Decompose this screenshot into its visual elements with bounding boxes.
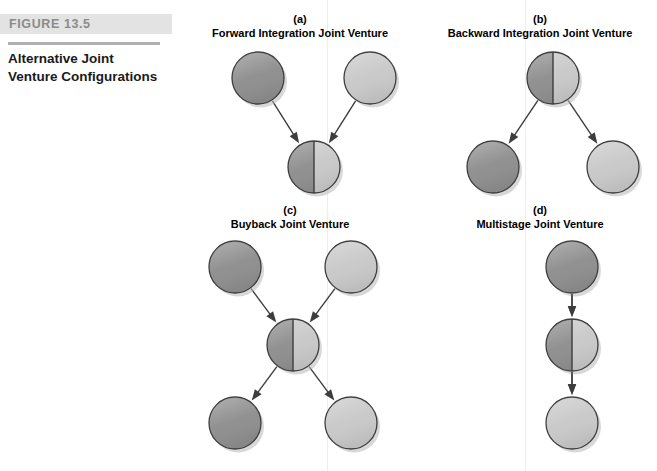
figure-caption-title: Alternative Joint Venture Configurations (8, 50, 173, 86)
panel-c-title: Buyback Joint Venture (190, 217, 390, 231)
arrow-parent-left-to-joint-venture (272, 101, 299, 143)
node-stage-three (546, 397, 601, 453)
panel-c-diagram (190, 233, 390, 461)
panel-a-nodes (232, 52, 399, 197)
node-child-left (209, 397, 264, 453)
caption-divider-rule (8, 42, 160, 45)
panel-a-heading: (a) Forward Integration Joint Venture (180, 12, 420, 40)
caption-line-1: Alternative Joint (8, 50, 173, 68)
panel-c-nodes (209, 241, 380, 453)
node-joint-venture (545, 318, 601, 375)
panel-b-letter: (b) (420, 12, 657, 26)
panel-a: (a) Forward Integration Joint Venture (180, 12, 420, 202)
panel-d-graph (472, 233, 608, 461)
panel-c-letter: (c) (190, 203, 390, 217)
node-joint-venture (526, 51, 582, 108)
node-parent-right (344, 52, 399, 108)
panel-b-nodes (467, 51, 642, 197)
panel-d: (d) Multistage Joint Venture (440, 203, 640, 463)
panel-d-nodes (545, 241, 601, 453)
panel-d-letter: (d) (440, 203, 640, 217)
node-parent-right (325, 241, 380, 297)
panel-c-graph (193, 233, 387, 461)
arrow-joint-venture-to-child-right (309, 367, 334, 401)
arrow-parent-right-to-joint-venture (310, 289, 335, 323)
panel-b-heading: (b) Backward Integration Joint Venture (420, 12, 657, 40)
node-joint-venture (287, 140, 343, 197)
panel-c: (c) Buyback Joint Venture (190, 203, 390, 463)
panel-d-diagram (440, 233, 640, 461)
panel-a-diagram (180, 42, 420, 205)
arrow-joint-venture-to-child-left (509, 100, 538, 143)
arrow-parent-left-to-joint-venture (251, 289, 276, 323)
arrow-joint-venture-to-child-left (252, 367, 277, 401)
node-joint-venture (266, 318, 322, 375)
arrow-joint-venture-to-stage-three (568, 372, 576, 395)
node-parent-left (232, 52, 287, 108)
caption-line-2: Venture Configurations (8, 68, 173, 86)
figure-number-label: FIGURE 13.5 (9, 16, 91, 32)
arrow-joint-venture-to-child-right (568, 100, 597, 143)
node-parent-left (209, 241, 264, 297)
panel-d-heading: (d) Multistage Joint Venture (440, 203, 640, 231)
arrow-parent-right-to-joint-venture (329, 101, 356, 143)
node-child-right (587, 141, 642, 197)
arrow-stage-one-to-joint-venture (568, 294, 576, 317)
panel-b-title: Backward Integration Joint Venture (420, 26, 657, 40)
panel-a-title: Forward Integration Joint Venture (180, 26, 420, 40)
node-child-left (467, 141, 522, 197)
panel-a-graph (194, 42, 406, 205)
node-child-right (325, 397, 380, 453)
panel-b-diagram (420, 42, 657, 205)
panel-b-graph (431, 42, 649, 205)
panel-c-heading: (c) Buyback Joint Venture (190, 203, 390, 231)
panel-b: (b) Backward Integration Joint Venture (420, 12, 657, 202)
figure-caption-column: FIGURE 13.5 Alternative Joint Venture Co… (0, 0, 178, 471)
panel-a-letter: (a) (180, 12, 420, 26)
node-stage-one (546, 241, 601, 297)
panel-d-title: Multistage Joint Venture (440, 217, 640, 231)
panel-a-arrows (272, 101, 355, 143)
